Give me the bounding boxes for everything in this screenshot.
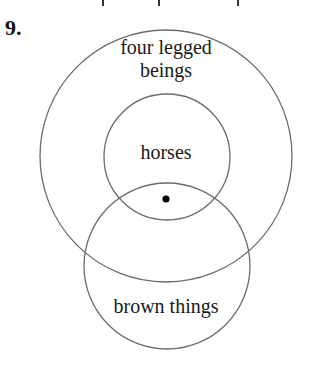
circle-brown-things (84, 183, 250, 349)
element-dot (162, 195, 169, 202)
label-four-legged-line2: beings (106, 59, 226, 82)
label-four-legged-beings: four legged beings (106, 36, 226, 82)
label-horses: horses (116, 141, 216, 164)
label-four-legged-line1: four legged (106, 36, 226, 59)
label-brown-things: brown things (101, 295, 231, 318)
